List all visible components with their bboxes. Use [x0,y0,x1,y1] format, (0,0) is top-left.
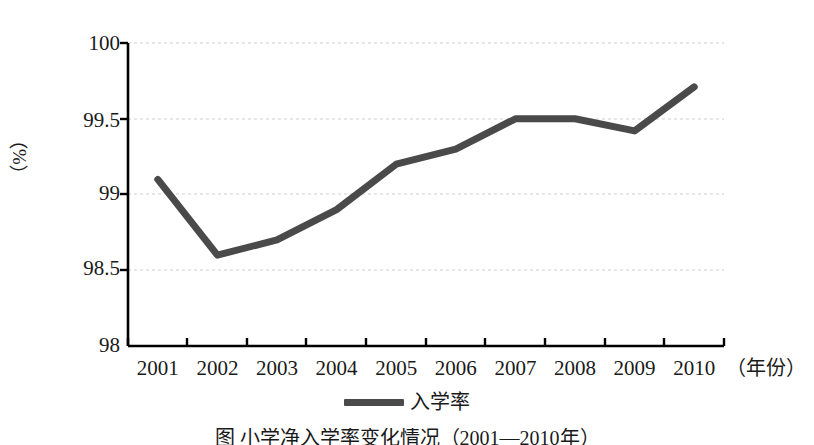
legend-swatch-enrollment-rate [344,399,404,406]
line-chart-figure: （%） 100 99.5 99 98.5 98 [0,0,814,445]
x-tick-label-2001: 2001 [137,358,179,379]
x-tick-label-2004: 2004 [316,358,358,379]
x-tick-label-2009: 2009 [614,358,656,379]
x-tick-label-2002: 2002 [196,358,238,379]
x-tick-label-2006: 2006 [435,358,477,379]
x-tick-label-2010: 2010 [673,358,715,379]
x-axis-title: （年份） [726,358,806,378]
chart-legend: 入学率 [0,388,814,416]
x-tick-label-2005: 2005 [375,358,417,379]
x-tick-label-2007: 2007 [494,358,536,379]
x-axis-tick-labels: 2001 2002 2003 2004 2005 2006 2007 2008 … [0,358,814,390]
x-tick-label-2003: 2003 [256,358,298,379]
legend-label-enrollment-rate: 入学率 [410,392,470,412]
figure-caption: 图 小学净入学率变化情况（2001—2010年） [0,428,814,445]
series-line-enrollment-rate [158,87,694,255]
x-tick-label-2008: 2008 [554,358,596,379]
